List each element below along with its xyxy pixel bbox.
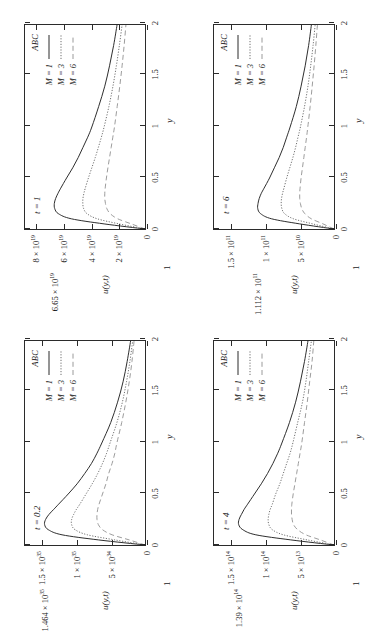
y-tick-mirror [301,341,302,346]
legend-item-label: M = 3 [56,380,66,401]
y-tick [42,540,43,545]
legend-item-label: M = 3 [56,64,66,85]
legend-item-label: M = 1 [44,64,54,85]
legend-title: ABC [219,34,229,85]
curve-m6 [105,25,145,229]
x-tick [329,441,334,442]
x-tick-mirror [214,441,219,442]
x-tick [140,390,145,391]
x-tick [329,228,334,229]
legend-item[interactable]: M = 3 [55,350,67,401]
plot-panel-1: 05 × 10341 × 10351.5 × 10351.464 × 10350… [0,316,189,632]
y-axis-title: u(y,t) [289,591,299,610]
x-tick-mirror [214,125,219,126]
legend-item-label: M = 3 [245,380,255,401]
y-tick-mirror [266,25,267,30]
y-tick-label: 1.5 × 1011 [227,235,236,269]
x-tick [329,544,334,545]
panel-time-label: t = 6 [221,196,231,214]
y-tick-mirror [64,25,65,30]
legend-item-label: M = 1 [44,380,54,401]
y-tick-mirror [336,341,337,346]
x-tick-mirror [25,22,30,23]
y-tick-mirror [147,341,148,346]
legend-item[interactable]: M = 1 [43,34,55,85]
x-tick-mirror [214,22,219,23]
legend-item-label: M = 1 [233,64,243,85]
legend-item[interactable]: M = 1 [232,350,244,401]
x-tick-label: 0.5 [340,488,349,499]
x-tick-label: 0 [340,227,349,231]
legend-item-label: M = 3 [245,64,255,85]
plot-panel-2: 02 × 10194 × 10196 × 10198 × 10196.65 × … [0,0,189,316]
x-tick-mirror [214,228,219,229]
legend-item[interactable]: M = 3 [244,34,256,85]
x-tick-mirror [25,177,30,178]
legend-swatch-solid [234,34,242,60]
y-tick [266,540,267,545]
y-axis-title: u(y,t) [289,275,299,294]
x-tick [140,493,145,494]
y-axis-title: u(y,t) [100,591,110,610]
legend-item[interactable]: M = 6 [67,350,79,401]
x-tick-mirror [25,228,30,229]
x-tick-mirror [25,338,30,339]
x-tick-mirror [214,493,219,494]
x-tick-mirror [25,493,30,494]
y-tick-mirror [112,341,113,346]
y-tick-label: 0 [332,551,341,555]
curve-m1 [258,25,334,229]
y-tick [92,224,93,229]
curve-m3 [71,341,145,545]
figure-rotator: 05 × 10341 × 10351.5 × 10351.464 × 10350… [0,0,378,632]
x-tick-label: 1.5 [151,69,160,80]
legend: ABCM = 1M = 3M = 6 [219,350,268,401]
y-tick-label: 5 × 1013 [297,551,306,579]
y-tick-mirror [42,341,43,346]
legend-item-label: M = 6 [68,380,78,401]
y-tick-label: 1.5 × 1014 [227,551,236,585]
y-tick [266,224,267,229]
x-tick [140,22,145,23]
x-tick-label: 2 [340,21,349,25]
x-tick [329,125,334,126]
legend-swatch-dotted [246,350,254,376]
legend-title: ABC [30,350,40,401]
x-tick-label: 0 [151,543,160,547]
y-tick-mirror [301,25,302,30]
y-special-tick-label: 6.65 × 1019 [50,273,60,311]
y-tick-label: 1.5 × 1035 [38,551,47,585]
legend-swatch-solid [45,34,53,60]
legend-item-label: M = 6 [68,64,78,85]
x-tick [140,74,145,75]
y-axis-title: u(y,t) [100,275,110,294]
x-tick-label: 0 [151,227,160,231]
y-tick [147,540,148,545]
y-tick-label: 5 × 1010 [297,235,306,263]
axis-unit-mark: 1 [351,266,361,271]
legend-item[interactable]: M = 6 [256,350,268,401]
legend-swatch-dotted [57,350,65,376]
curve-m3 [281,25,334,229]
legend-item-label: M = 1 [233,380,243,401]
y-tick-label: 0 [143,235,152,239]
y-tick-label: 0 [332,235,341,239]
y-tick-label: 8 × 1019 [32,235,41,263]
legend-item[interactable]: M = 1 [43,350,55,401]
y-special-tick-label: 1.39 × 1014 [234,589,244,627]
x-axis-title: y [164,434,175,438]
figure-four-panel-plot: 05 × 10341 × 10351.5 × 10351.464 × 10350… [0,0,378,632]
legend-swatch-dashed [69,350,77,376]
legend-item[interactable]: M = 3 [55,34,67,85]
x-tick-label: 2 [340,337,349,341]
legend-item[interactable]: M = 1 [232,34,244,85]
x-tick [329,338,334,339]
x-tick-label: 0 [340,543,349,547]
legend-item[interactable]: M = 6 [67,34,79,85]
y-tick-mirror [147,25,148,30]
legend-item[interactable]: M = 6 [256,34,268,85]
legend-item[interactable]: M = 3 [244,350,256,401]
curve-m6 [97,341,145,545]
y-tick-label: 0 [143,551,152,555]
legend-swatch-dotted [57,34,65,60]
